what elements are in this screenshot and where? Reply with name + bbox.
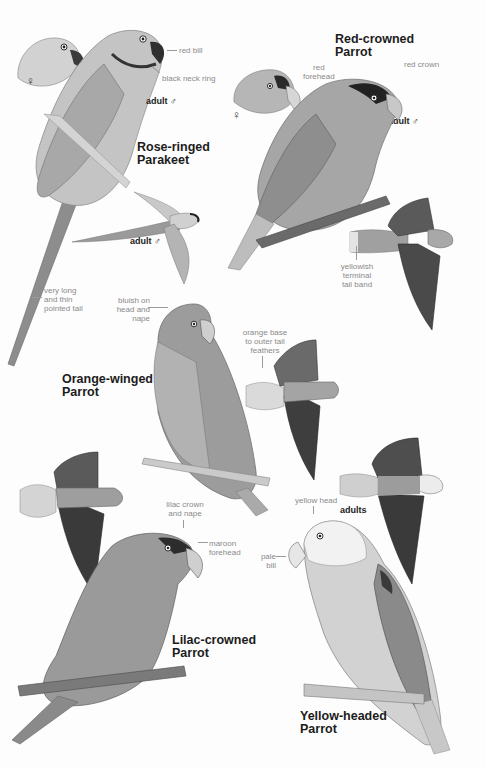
red-crowned-crown-annotation: red crown xyxy=(404,60,439,69)
lilac-crowned-crown-annotation: lilac crown and nape xyxy=(160,500,210,518)
rose-ringed-bill-annotation: red bill xyxy=(179,46,203,55)
rose-ringed-neck-annotation: black neck ring xyxy=(162,74,215,83)
field-guide-plate: ♀ red bill black neck ring adult ♂ Rose-… xyxy=(0,0,486,768)
orange-winged-parrot-title: Orange-winged Parrot xyxy=(62,373,153,399)
yellow-headed-head-leader xyxy=(313,506,314,514)
rose-ringed-flight-adult-male-label: adult ♂ xyxy=(130,236,161,246)
lilac-crowned-forehead-annotation: maroon forehead xyxy=(209,539,241,557)
yellow-headed-parrot-title: Yellow-headed Parrot xyxy=(300,710,387,736)
red-crowned-tail-annotation: yellowish terminal tail band xyxy=(336,262,378,289)
rose-ringed-tail-leader xyxy=(32,297,42,298)
rose-ringed-parakeet-title: Rose-ringed Parakeet xyxy=(137,141,210,167)
lilac-crowned-parrot-title: Lilac-crowned Parrot xyxy=(172,634,256,660)
yellow-headed-bill-annotation: pale bill xyxy=(258,552,276,570)
rose-ringed-adult-male-label: adult ♂ xyxy=(146,96,177,106)
rose-ringed-bill-leader xyxy=(167,50,177,51)
yellow-headed-head-annotation: yellow head xyxy=(295,496,337,505)
red-crowned-tail-leader xyxy=(356,246,357,260)
orange-winged-flight-illustration xyxy=(244,336,344,481)
rose-ringed-tail-annotation: very long and thin pointed tail xyxy=(44,286,83,313)
red-crowned-parrot-title: Red-crowned Parrot xyxy=(335,33,414,59)
